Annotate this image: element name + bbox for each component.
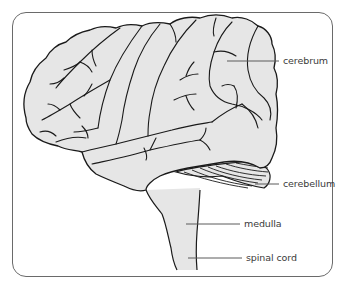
label-cerebrum: cerebrum [283,55,328,67]
brain-illustration [0,0,349,290]
label-cerebellum: cerebellum [283,178,335,190]
label-medulla: medulla [244,218,282,230]
label-spinal-cord: spinal cord [246,252,297,264]
